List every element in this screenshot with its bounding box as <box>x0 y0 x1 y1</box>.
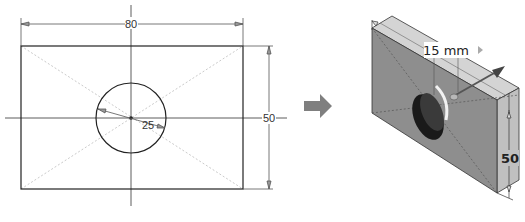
sketch-2d: 80 50 25 <box>5 5 287 206</box>
dimension-diameter[interactable] <box>98 109 165 128</box>
extrude-distance-value[interactable]: 15 mm <box>423 43 469 58</box>
centerlines <box>5 5 287 206</box>
side-face[interactable] <box>497 88 519 193</box>
width-dimension-value[interactable]: 80 <box>125 18 137 30</box>
height-dimension-value[interactable]: 50 <box>263 112 275 124</box>
model-3d[interactable]: 15 mm 50 <box>372 16 519 200</box>
right-arrow-icon <box>304 94 332 118</box>
figure-canvas: 80 50 25 <box>0 0 525 222</box>
height-dimension-3d-value[interactable]: 50 <box>501 151 519 166</box>
distance-menu-arrow-icon[interactable] <box>478 46 483 54</box>
diameter-dimension-value[interactable]: 25 <box>142 119 154 131</box>
